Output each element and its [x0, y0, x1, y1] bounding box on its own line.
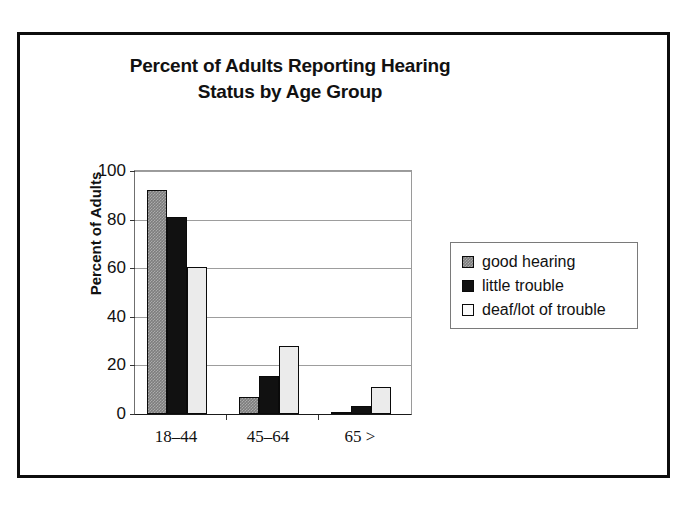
legend-swatch-deaf-lot-of-trouble	[462, 304, 474, 316]
chart-title: Percent of Adults Reporting Hearing Stat…	[80, 53, 500, 105]
y-tick-label: 0	[117, 404, 126, 424]
chart-title-line-1: Percent of Adults Reporting Hearing	[80, 53, 500, 79]
bar	[331, 412, 351, 414]
bar	[371, 387, 391, 414]
chart-title-line-2: Status by Age Group	[80, 79, 500, 105]
y-tick-label: 60	[107, 258, 126, 278]
legend-item[interactable]: deaf/lot of trouble	[462, 301, 627, 319]
x-tick-label: 65 >	[345, 427, 376, 447]
bars-layer	[135, 171, 411, 414]
x-tick-label: 18–44	[155, 427, 198, 447]
y-tick-mark	[130, 414, 135, 415]
y-tick-label: 100	[98, 161, 126, 181]
bar	[187, 267, 207, 414]
bar	[259, 376, 279, 414]
legend-label: little trouble	[482, 277, 564, 295]
y-tick-label: 80	[107, 210, 126, 230]
legend-item[interactable]: good hearing	[462, 253, 627, 271]
x-tick-label: 45–64	[247, 427, 290, 447]
legend-label: good hearing	[482, 253, 575, 271]
x-tick-mark	[226, 415, 227, 420]
bar	[147, 190, 167, 414]
y-tick-label: 20	[107, 355, 126, 375]
legend-swatch-little-trouble	[462, 280, 474, 292]
plot-area: 020406080100	[134, 170, 412, 415]
bar	[279, 346, 299, 414]
legend-label: deaf/lot of trouble	[482, 301, 606, 319]
x-tick-mark	[318, 415, 319, 420]
bar	[351, 406, 371, 415]
bar	[239, 397, 259, 414]
chart-legend: good hearing little trouble deaf/lot of …	[450, 242, 638, 329]
legend-item[interactable]: little trouble	[462, 277, 627, 295]
chart-figure-frame: Percent of Adults Reporting Hearing Stat…	[17, 32, 670, 478]
legend-swatch-good-hearing	[462, 256, 474, 268]
y-tick-label: 40	[107, 307, 126, 327]
bar	[167, 217, 187, 414]
